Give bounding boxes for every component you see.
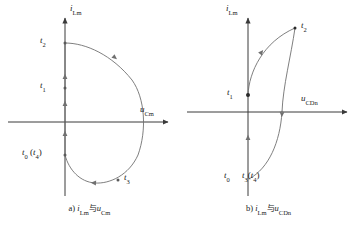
panel-a-label-t3: t3 [124,173,130,182]
panel-a-y-axis-label: iLm [70,4,82,13]
panel-b-direction-arrows [246,48,285,140]
panel-b-ilm-vs-ucdn: iLm uCDn t2 t1 t0 t3(t4) b) iLm与uCDn [179,0,358,227]
panel-a-ilm-vs-ucm: iLm uCm t2 t1 t0 (t4) t3 a) iLm与uCm [0,0,179,227]
panel-b-trajectory-return [249,28,295,179]
panel-b-trajectory [248,28,295,95]
panel-a-x-axis-label: uCm [140,105,154,114]
panel-a-label-t0-t4: t0 (t4) [22,148,42,157]
panel-b-label-t1: t1 [227,88,233,97]
panel-b-label-t3-t4: t3(t4) [242,171,260,180]
panel-a-direction-arrows [63,54,119,185]
panel-a-label-t1: t1 [40,81,46,90]
panel-a-caption: a) iLm与uCm [0,202,179,213]
panel-b-label-t2: t2 [301,21,307,30]
panel-b-label-t0: t0 [224,171,230,180]
panel-b-plot [179,0,358,227]
panel-a-trajectory [65,43,144,183]
panel-b-y-axis-label: iLm [226,4,238,13]
panel-b-x-axis-label: uCDn [301,94,318,103]
figure-root: iLm uCm t2 t1 t0 (t4) t3 a) iLm与uCm [0,0,358,227]
panel-b-caption: b) iLm与uCDn [179,202,358,213]
panel-a-point-markers [64,42,120,182]
panel-b-axis-crossing-marker [281,111,284,114]
panel-a-label-t2: t2 [40,36,46,45]
